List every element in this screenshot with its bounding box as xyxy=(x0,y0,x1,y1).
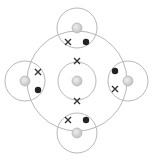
cross-electron-icon xyxy=(74,58,80,64)
dot-electron-icon xyxy=(112,68,118,74)
dot-electron-icon xyxy=(83,117,89,123)
outer-atom-nucleus-left xyxy=(20,76,30,86)
cross-electron-icon xyxy=(74,98,80,104)
cross-electron-icon xyxy=(112,86,118,92)
cross-electron-icon xyxy=(65,39,71,45)
outer-atom-nucleus-bottom xyxy=(72,128,82,138)
outer-atom-nucleus-right xyxy=(123,76,133,86)
cross-electron-icon xyxy=(65,117,71,123)
cross-electron-icon xyxy=(35,69,41,75)
dot-cross-diagram xyxy=(0,0,153,161)
dot-electron-icon xyxy=(83,39,89,45)
dot-electron-icon xyxy=(35,87,41,93)
outer-atom-nucleus-top xyxy=(72,23,82,33)
central-nucleus xyxy=(72,76,82,86)
